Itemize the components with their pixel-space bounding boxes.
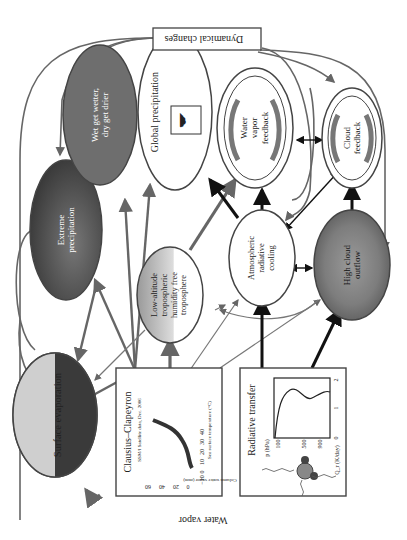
radiative-title: Radiative transfer [246, 384, 258, 455]
low-altitude-label: Low-altitude tropospheric humidity free … [150, 272, 189, 318]
cloud-feedback-label: Cloud feedback [342, 122, 363, 154]
water-vapor-title: Water vapor [179, 514, 228, 526]
heating-plot [274, 378, 330, 438]
rain-cloud-icon: ☁ [176, 112, 195, 128]
dynamical-changes-label: Dynamical changes [165, 33, 244, 45]
clausius-title: Clausius–Clapeyron [122, 391, 134, 472]
clausius-subtitle: SSM/I Satellite data, Dec. 2006 [137, 398, 143, 461]
global-precipitation-label: Global precipitation [149, 72, 161, 152]
clausius-xlabel: Sea surface temperature (°C) [207, 401, 213, 459]
atmospheric-cooling-label: Atmospheric radiative cooling [247, 236, 276, 280]
high-cloud-outflow-label: High cloud outflow [342, 245, 363, 285]
radiative-xlabel: Q_r (K/day) [334, 445, 341, 475]
clausius-ylabel: Column water vapor (mm) [183, 477, 236, 483]
wet-get-wetter-label: Wet get wetter, dry get drier [90, 88, 111, 142]
extreme-precipitation-label: Extreme precipitation [56, 207, 77, 252]
surface-evaporation-label: Surface evaporation [52, 373, 64, 457]
water-vapor-feedback-label: Water vapor feedback [239, 112, 270, 144]
radiative-ylabel: p (hPa) [264, 439, 271, 457]
